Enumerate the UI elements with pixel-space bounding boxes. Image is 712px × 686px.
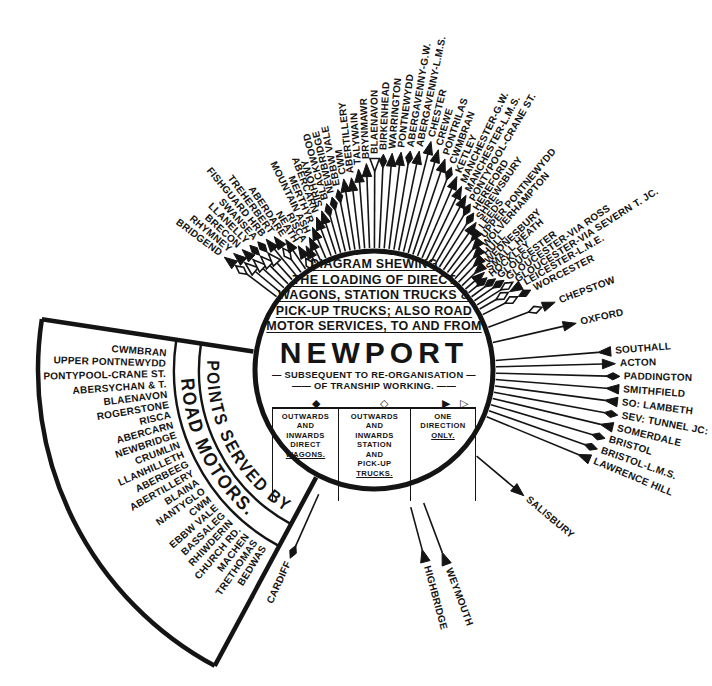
subtitle-line-2: —— OF TRANSHIP WORKING. —— — [259, 381, 489, 392]
open-arrow-in-icon — [370, 159, 380, 172]
title-line: DIAGRAM SHEWING — [259, 257, 489, 273]
spoke-label: PADDINGTON — [624, 370, 693, 383]
legend-table: OUTWARDS AND INWARDS DIRECT WAGONS.OUTWA… — [272, 409, 476, 501]
filled-diamond-icon — [584, 443, 597, 450]
spoke-line — [413, 171, 441, 254]
open-diamond-icon — [236, 266, 247, 274]
spoke-line — [424, 503, 443, 553]
filled-diamond-icon: ◆ — [312, 398, 320, 409]
open-diamond-icon: ◇ — [380, 398, 388, 409]
spoke-line — [487, 417, 578, 455]
filled-arrow-in-icon — [600, 423, 614, 432]
spoke-line — [488, 312, 529, 327]
spoke-line — [496, 380, 607, 389]
title-line: THE LOADING OF DIRECT — [259, 273, 489, 289]
legend: ◆◇▶▷ OUTWARDS AND INWARDS DIRECT WAGONS.… — [272, 395, 476, 501]
filled-diamond-icon — [592, 433, 605, 440]
spoke-line — [422, 188, 452, 258]
spoke-label: OXFORD — [579, 306, 624, 327]
legend-cell: OUTWARDS AND INWARDS STATION AND PICK-UP… — [338, 409, 410, 501]
spoke-line — [418, 179, 447, 256]
spoke-label: ACTON — [620, 356, 657, 368]
filled-arrow-in-icon — [598, 347, 611, 357]
filled-arrow-in-icon — [421, 549, 430, 563]
spoke-line — [493, 326, 564, 342]
spoke-line — [411, 507, 422, 550]
filled-arrow-out-icon — [395, 152, 405, 166]
spoke-line — [496, 373, 607, 376]
spoke-line — [496, 352, 599, 360]
filled-diamond-icon — [258, 242, 267, 252]
spoke-line — [427, 198, 457, 260]
filled-diamond-icon — [518, 290, 531, 296]
spoke-label: WEYMOUTH — [444, 566, 476, 627]
diagram-title: DIAGRAM SHEWINGTHE LOADING OF DIRECTWAGO… — [259, 257, 489, 335]
center-panel: DIAGRAM SHEWINGTHE LOADING OF DIRECTWAGO… — [259, 257, 489, 501]
filled-arrow-out-icon — [541, 302, 555, 311]
spoke-label: CHEPSTOW — [557, 274, 617, 305]
road-motor-place: UPPER PONTNEWYDD — [53, 354, 166, 368]
spoke-line — [367, 176, 370, 248]
spoke-line — [496, 364, 603, 367]
filled-arrow-out-icon — [412, 151, 421, 165]
filled-diamond-icon — [604, 410, 618, 417]
spoke-line — [379, 167, 383, 248]
filled-arrow-out-icon — [362, 164, 372, 177]
legend-cell: OUTWARDS AND INWARDS DIRECT WAGONS. — [272, 409, 338, 501]
open-arrow-icon: ▷ — [460, 398, 468, 409]
filled-diamond-icon — [446, 167, 453, 180]
spoke-line — [495, 386, 605, 400]
spoke-line — [330, 216, 340, 253]
spoke-line — [431, 206, 460, 262]
spoke-label: SOUTHALL — [615, 340, 672, 355]
filled-arrow-in-icon — [605, 397, 619, 407]
diagram-canvas: POINTS SERVED BYROAD MOTORS.CWMBRANUPPER… — [0, 0, 712, 686]
filled-diamond-icon — [606, 373, 620, 380]
subtitle-line-1: — SUBSEQUENT TO RE-ORGANISATION — — [259, 370, 489, 381]
filled-arrow-out-icon — [562, 322, 576, 331]
spoke-line — [326, 223, 336, 254]
spoke-line — [295, 494, 318, 546]
open-diamond-icon — [529, 306, 542, 313]
title-line: WAGONS, STATION TRUCKS & — [259, 288, 489, 304]
filled-arrow-in-icon — [606, 385, 619, 395]
filled-diamond-icon — [290, 545, 297, 558]
legend-cell: ONE DIRECTION ONLY. — [410, 409, 476, 501]
city-name: NEWPORT — [259, 336, 489, 370]
filled-arrow-icon: ▶ — [442, 398, 450, 409]
filled-arrow-out-icon — [602, 359, 615, 369]
filled-arrow-in-icon — [578, 454, 592, 463]
spoke-line — [360, 182, 365, 249]
title-line: MOTOR SERVICES, TO AND FROM — [259, 319, 489, 335]
legend-symbol-rule: ◆◇▶▷ — [272, 395, 476, 409]
filled-arrow-in-icon — [442, 552, 451, 566]
spoke-label: SALISBURY — [524, 494, 577, 541]
open-diamond-icon — [496, 293, 508, 300]
open-diamond-icon — [505, 297, 518, 303]
title-line: PICK-UP TRUCKS; ALSO ROAD — [259, 304, 489, 320]
